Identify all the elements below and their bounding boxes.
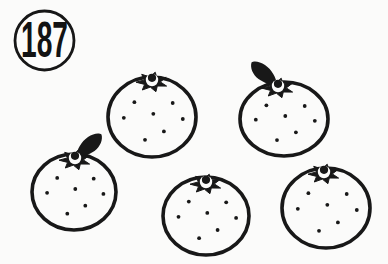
worksheet-illustration: 187 — [0, 0, 388, 264]
peel-dot — [325, 203, 329, 207]
peel-dot — [177, 215, 181, 219]
peel-dot — [216, 228, 220, 232]
peel-dot — [283, 114, 287, 118]
oranges-group — [32, 61, 370, 255]
badge-number: 187 — [21, 12, 68, 68]
peel-dot — [133, 100, 137, 104]
peel-dot — [275, 138, 279, 142]
peel-dot — [187, 200, 191, 204]
peel-dot — [92, 177, 96, 181]
peel-dot — [162, 130, 166, 134]
peel-dot — [65, 212, 69, 216]
peel-dot — [122, 116, 126, 120]
peel-dot — [143, 138, 147, 142]
orange-bottom-right — [282, 164, 370, 248]
peel-dot — [355, 208, 359, 212]
peel-dot — [345, 192, 349, 196]
peel-dot — [336, 221, 340, 225]
peel-dot — [171, 101, 175, 105]
peel-dot — [205, 211, 209, 215]
orange-top-middle — [108, 72, 196, 157]
peel-dot — [294, 130, 298, 134]
scene-canvas: 187 — [0, 0, 388, 264]
orange-top-right — [240, 61, 328, 156]
peel-dot — [55, 176, 59, 180]
peel-dot — [254, 118, 258, 122]
peel-dot — [265, 103, 269, 107]
peel-dot — [73, 187, 77, 191]
peel-dot — [181, 117, 185, 121]
peel-dot — [45, 191, 49, 195]
orange-bottom-left — [32, 133, 116, 230]
item-number-badge: 187 — [15, 11, 74, 70]
peel-dot — [151, 112, 155, 116]
peel-dot — [83, 204, 87, 208]
peel-dot — [307, 191, 311, 195]
peel-dot — [234, 216, 238, 220]
peel-dot — [224, 200, 228, 204]
peel-dot — [197, 236, 201, 240]
peel-dot — [303, 104, 307, 108]
peel-dot — [313, 119, 317, 123]
orange-bottom-middle — [163, 174, 249, 255]
peel-dot — [296, 207, 300, 211]
peel-dot — [102, 192, 106, 196]
peel-dot — [317, 229, 321, 233]
